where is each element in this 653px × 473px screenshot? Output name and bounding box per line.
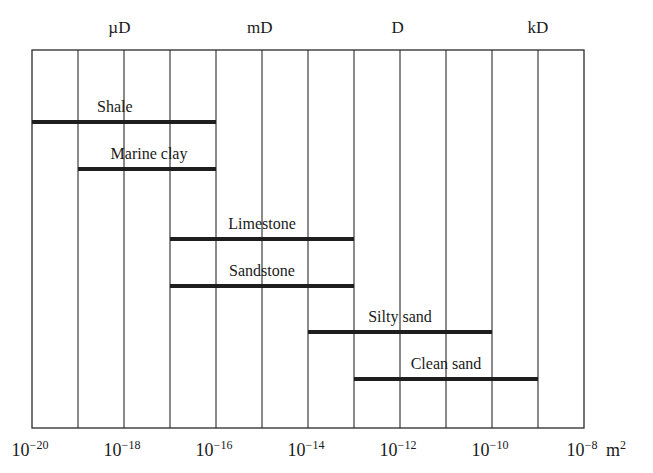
bar-label: Clean sand	[411, 355, 482, 373]
bar-label: Limestone	[228, 215, 296, 233]
plot-area	[0, 0, 653, 473]
bar-label: Silty sand	[368, 308, 432, 326]
x-tick-label: 10−14	[288, 438, 325, 461]
x-tick-label: 10−16	[196, 438, 233, 461]
secondary-axis-label: µD	[108, 18, 130, 38]
secondary-axis-label: mD	[247, 18, 273, 38]
x-tick-label: 10−10	[472, 438, 509, 461]
secondary-axis-label: D	[392, 18, 404, 38]
x-tick-label: 10−12	[380, 438, 417, 461]
x-tick-label: 10−20	[12, 438, 49, 461]
x-tick-label: 10−18	[104, 438, 141, 461]
bar-label: Sandstone	[229, 262, 295, 280]
secondary-axis-label: kD	[528, 18, 549, 38]
bar-label: Shale	[97, 98, 133, 116]
x-tick-label: 10−8	[567, 438, 598, 461]
x-unit-label: m2	[606, 438, 626, 461]
permeability-chart: ShaleMarine clayLimestoneSandstoneSilty …	[0, 0, 653, 473]
bar-label: Marine clay	[111, 145, 188, 163]
